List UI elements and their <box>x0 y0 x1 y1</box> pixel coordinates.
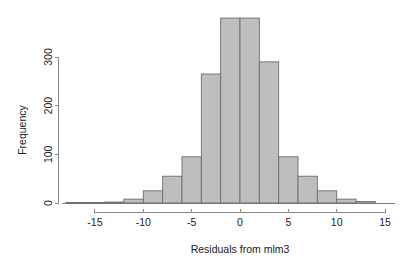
histogram-bar <box>356 202 375 203</box>
y-axis-tick-label: 100 <box>42 145 54 163</box>
y-axis-tick-label: 0 <box>42 200 54 206</box>
histogram-bar <box>317 191 336 203</box>
histogram-bar <box>182 157 201 203</box>
histogram-bars <box>66 18 375 203</box>
histogram-bar <box>240 18 259 203</box>
plot-canvas: 0100200300 -15-10-5051015 Residuals from… <box>0 0 403 268</box>
x-axis: -15-10-5051015 <box>87 209 391 228</box>
x-axis-tick-label: 15 <box>379 216 391 228</box>
y-axis-tick-label: 200 <box>42 97 54 115</box>
histogram-bar <box>105 202 124 203</box>
histogram-bar <box>66 203 85 204</box>
y-axis-tick-label: 300 <box>42 48 54 66</box>
histogram-bar <box>337 199 356 203</box>
histogram-bar <box>143 191 162 203</box>
histogram-bar <box>298 176 317 203</box>
y-axis-title: Frequency <box>16 104 28 154</box>
histogram-bar <box>124 199 143 203</box>
histogram-bar <box>85 203 104 204</box>
x-axis-tick-label: 5 <box>285 216 291 228</box>
y-axis: 0100200300 <box>42 48 58 206</box>
x-axis-tick-label: 0 <box>237 216 243 228</box>
x-axis-tick-label: 10 <box>331 216 343 228</box>
histogram-bar <box>259 62 278 203</box>
x-axis-tick-label: -5 <box>187 216 196 228</box>
histogram-bar <box>201 74 220 203</box>
histogram-plot: 0100200300 -15-10-5051015 Residuals from… <box>0 0 403 268</box>
histogram-bar <box>279 157 298 203</box>
histogram-bar <box>221 18 240 203</box>
x-axis-tick-label: -15 <box>87 216 102 228</box>
x-axis-tick-label: -10 <box>136 216 151 228</box>
histogram-bar <box>163 176 182 203</box>
x-axis-title: Residuals from mlm3 <box>191 243 290 255</box>
